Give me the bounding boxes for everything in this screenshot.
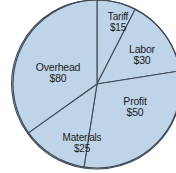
pie-label-tariff: Tariff $15 [101,12,135,34]
pie-label-materials: Materials $25 [55,133,109,155]
pie-label-profit: Profit $50 [116,96,154,119]
pie-label-overhead-value: $80 [27,73,89,84]
pie-label-tariff-value: $15 [101,23,135,34]
pie-label-materials-value: $25 [55,144,109,155]
pie-label-labor: Labor $30 [123,44,161,67]
figure-caption-line-2: me. [0,149,52,162]
figure-caption: ng costs me. [0,136,52,163]
pie-label-profit-value: $50 [116,107,154,118]
pie-label-overhead: Overhead $80 [27,62,89,85]
figure-caption-line-1: ng costs [0,136,52,149]
pie-label-labor-value: $30 [123,55,161,66]
pie-chart-figure: Overhead $80 Tariff $15 Labor $30 Profit… [0,0,176,173]
